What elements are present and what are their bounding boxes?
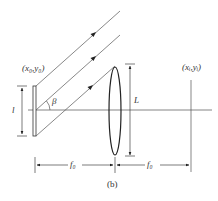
lens-aperture-label: L — [134, 96, 139, 105]
angle-beta-arc — [47, 101, 51, 110]
ray-arrow-icons — [88, 32, 97, 90]
angle-beta-label: β — [52, 97, 56, 106]
image-point-label: (xᵢ,yᵢ) — [182, 63, 201, 72]
ray-bottom — [36, 66, 115, 136]
source-point-label: (x₀,y₀) — [22, 64, 45, 73]
focal-left-label: f₀ — [70, 160, 76, 169]
parallel-rays — [36, 11, 120, 136]
source-height-label: l — [12, 106, 15, 115]
lens — [109, 67, 121, 155]
focal-right-label: f₀ — [147, 160, 153, 169]
source-aperture — [33, 86, 36, 136]
optical-diagram — [0, 0, 218, 201]
figure-caption: (b) — [107, 180, 118, 189]
ray-top — [36, 11, 120, 86]
